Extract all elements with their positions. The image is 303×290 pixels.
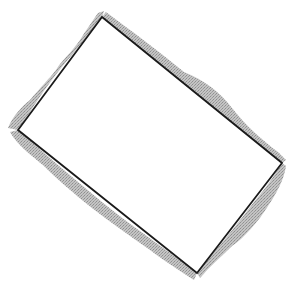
diagram-canvas	[0, 0, 303, 290]
rotated-rectangle-figure	[0, 0, 303, 290]
